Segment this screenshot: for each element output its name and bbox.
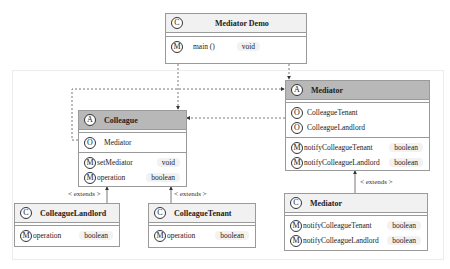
method-name: notifyColleagueLandlord xyxy=(303,236,379,245)
method-icon: M xyxy=(154,230,166,242)
class-colleague[interactable]: A Colleague O Mediator M setMediator voi… xyxy=(78,110,187,187)
return-type: boolean xyxy=(389,158,423,167)
method-name: notifyColleagueTenant xyxy=(303,221,372,230)
class-icon: C xyxy=(20,207,32,219)
field-icon: O xyxy=(84,137,96,149)
class-header: C ColleagueTenant xyxy=(149,204,255,223)
class-mediator-concrete[interactable]: C Mediator M notifyColleagueTenant boole… xyxy=(284,193,428,251)
method-icon: M xyxy=(290,235,302,247)
method-row[interactable]: M operation boolean xyxy=(15,228,119,243)
return-type: boolean xyxy=(387,221,421,230)
class-name: Mediator xyxy=(310,199,342,208)
method-icon: M xyxy=(291,142,303,154)
class-mediator-abstract[interactable]: A Mediator O ColleagueTenant O Colleague… xyxy=(285,80,430,171)
method-name: notifyColleagueLandlord xyxy=(304,158,380,167)
class-header: C Mediator xyxy=(285,194,427,213)
field-name: ColleagueLandlord xyxy=(307,123,365,132)
method-row[interactable]: M notifyColleagueLandlord boolean xyxy=(286,155,429,170)
method-icon: M xyxy=(84,157,96,169)
field-row[interactable]: O Mediator xyxy=(79,135,186,150)
method-name: main () xyxy=(193,42,215,51)
field-name: ColleagueTenant xyxy=(307,108,358,117)
extends-label: < extends > xyxy=(360,178,393,186)
abstract-icon: A xyxy=(291,84,303,96)
class-name: ColleagueTenant xyxy=(174,209,232,218)
class-name: ColleagueLandlord xyxy=(40,209,106,218)
method-row[interactable]: M notifyColleagueTenant boolean xyxy=(286,140,429,155)
field-icon: O xyxy=(291,122,303,134)
field-name: Mediator xyxy=(104,138,132,147)
method-name: operation xyxy=(97,173,125,182)
extends-label: < extends > xyxy=(174,190,207,198)
class-icon: C xyxy=(154,207,166,219)
class-name: Mediator Demo xyxy=(215,19,269,28)
class-header: C Mediator Demo xyxy=(166,14,306,33)
class-header: C ColleagueLandlord xyxy=(15,204,119,223)
class-name: Colleague xyxy=(104,116,138,125)
method-icon: M xyxy=(291,157,303,169)
method-name: operation xyxy=(33,231,61,240)
class-header: A Colleague xyxy=(79,111,186,130)
method-row[interactable]: M notifyColleagueLandlord boolean xyxy=(285,233,427,248)
field-row[interactable]: O ColleagueTenant xyxy=(286,105,429,120)
method-row[interactable]: M operation boolean xyxy=(79,170,186,185)
return-type: void xyxy=(237,42,260,51)
field-icon: O xyxy=(291,107,303,119)
class-colleague-landlord[interactable]: C ColleagueLandlord M operation boolean xyxy=(14,203,120,247)
method-row[interactable]: M notifyColleagueTenant boolean xyxy=(285,218,427,233)
method-row[interactable]: M setMediator void xyxy=(79,155,186,170)
return-type: boolean xyxy=(215,231,249,240)
class-colleague-tenant[interactable]: C ColleagueTenant M operation boolean xyxy=(148,203,256,248)
return-type: void xyxy=(157,158,180,167)
class-name: Mediator xyxy=(311,86,343,95)
return-type: boolean xyxy=(146,173,180,182)
return-type: boolean xyxy=(79,231,113,240)
method-icon: M xyxy=(171,41,183,53)
class-icon: C xyxy=(171,17,183,29)
abstract-icon: A xyxy=(84,114,96,126)
class-header: A Mediator xyxy=(286,81,429,100)
class-mediator-demo[interactable]: C Mediator Demo M main () void xyxy=(165,13,307,64)
method-name: setMediator xyxy=(97,158,133,167)
method-name: operation xyxy=(167,231,195,240)
class-icon: C xyxy=(290,197,302,209)
method-icon: M xyxy=(290,220,302,232)
method-row[interactable]: M operation boolean xyxy=(149,228,255,243)
method-row[interactable]: M main () void xyxy=(166,39,306,54)
extends-label: < extends > xyxy=(68,190,101,198)
field-row[interactable]: O ColleagueLandlord xyxy=(286,120,429,135)
return-type: boolean xyxy=(389,143,423,152)
method-icon: M xyxy=(84,172,96,184)
method-name: notifyColleagueTenant xyxy=(304,143,373,152)
return-type: boolean xyxy=(387,236,421,245)
method-icon: M xyxy=(20,230,32,242)
